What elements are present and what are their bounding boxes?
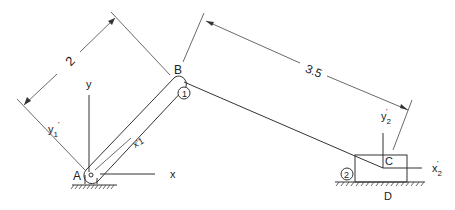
point-d-label: D: [384, 190, 392, 202]
dimension-bc: 3.5: [183, 13, 412, 150]
link-1-number: 1: [182, 89, 187, 99]
slider-block: C 2: [341, 133, 422, 182]
dimension-bc-label: 3.5: [303, 62, 324, 81]
local-y2-label: y2': [381, 107, 392, 126]
global-y-label: y: [86, 78, 92, 90]
pivot-a: A: [71, 169, 117, 189]
point-a-label: A: [73, 169, 81, 183]
point-b-label: B: [174, 63, 182, 77]
point-c-label: C: [385, 155, 393, 167]
local-x1-label: x'1: [131, 136, 146, 150]
dimension-ab: 2: [17, 12, 170, 170]
local-x2-label: x2': [432, 159, 443, 178]
local-y1-label: y1': [48, 120, 60, 139]
link-2-number: 2: [344, 170, 349, 180]
link-2-connecting-rod: [184, 82, 355, 156]
slider-crank-diagram: 2 3.5 y x y1' x'1 A B 1: [0, 0, 455, 210]
dimension-ab-label: 2: [62, 53, 78, 69]
ground-slider: D: [335, 182, 425, 202]
global-x-label: x: [170, 168, 176, 180]
